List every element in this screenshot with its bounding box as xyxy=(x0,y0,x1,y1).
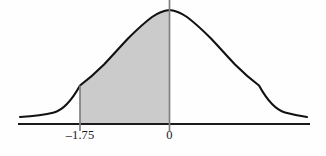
x-tick-label-neg-1-75: –1.75 xyxy=(66,128,95,143)
normal-curve-figure: –1.75 0 xyxy=(0,0,326,156)
shaded-area-region xyxy=(80,10,170,124)
bell-curve-plot xyxy=(0,0,326,156)
x-tick-label-zero: 0 xyxy=(166,128,172,143)
